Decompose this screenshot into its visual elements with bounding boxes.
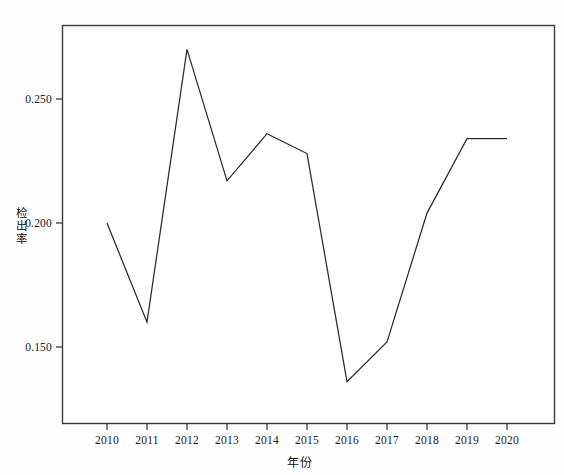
x-tick-label-2016: 2016 — [335, 434, 359, 446]
line-chart-canvas — [0, 0, 564, 475]
y-tick-label-2: 0.150 — [12, 341, 52, 353]
x-tick-label-2020: 2020 — [495, 434, 519, 446]
y-axis-ticks — [56, 99, 63, 347]
x-tick-label-2018: 2018 — [415, 434, 439, 446]
x-tick-label-2011: 2011 — [135, 434, 158, 446]
x-tick-label-2013: 2013 — [215, 434, 239, 446]
chart-page: 0.250 0.200 0.150 检 出 率 2010 2011 2012 2… — [0, 0, 564, 475]
x-tick-label-2014: 2014 — [255, 434, 279, 446]
x-tick-label-2015: 2015 — [295, 434, 319, 446]
x-axis-title: 年份 — [287, 453, 313, 470]
x-tick-label-2010: 2010 — [95, 434, 119, 446]
x-tick-label-2012: 2012 — [175, 434, 199, 446]
y-tick-label-0: 0.250 — [12, 93, 52, 105]
x-axis-ticks — [107, 424, 507, 431]
y-axis-title: 检 出 率 — [14, 207, 28, 246]
plot-frame — [63, 26, 555, 424]
y-axis-title-char-2: 率 — [14, 233, 28, 246]
x-tick-label-2019: 2019 — [455, 434, 479, 446]
x-tick-label-2017: 2017 — [375, 434, 399, 446]
